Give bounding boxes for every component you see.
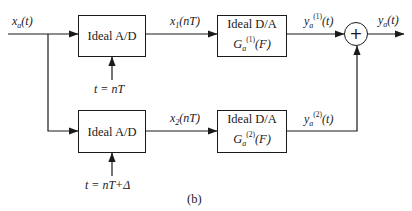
dac-2-label: Ideal D/A <box>227 111 277 127</box>
ideal-ad-converter-2: Ideal A/D <box>78 110 146 153</box>
figure-caption: (b) <box>187 192 202 207</box>
output-signal-label: ya(t) <box>378 13 399 29</box>
dac-output-label-1: ya(1)(t) <box>304 12 333 30</box>
dac-1-transfer-function: Ga(1)(F) <box>233 32 271 57</box>
summing-junction: + <box>344 22 368 46</box>
sampling-time-label-1: t = nT <box>94 82 124 97</box>
input-signal-label: xa(t) <box>12 14 33 30</box>
ideal-da-converter-1: Ideal D/A Ga(1)(F) <box>217 15 287 57</box>
plus-icon: + <box>349 26 362 42</box>
dac-2-transfer-function: Ga(2)(F) <box>233 127 271 152</box>
sample-signal-label-2: x2(nT) <box>170 111 200 127</box>
dac-1-label: Ideal D/A <box>227 16 277 32</box>
sampling-time-label-2: t = nT+Δ <box>85 178 130 193</box>
dac-output-label-2: ya(2)(t) <box>304 110 333 128</box>
ideal-ad-converter-1: Ideal A/D <box>78 15 146 57</box>
ideal-da-converter-2: Ideal D/A Ga(2)(F) <box>217 110 287 153</box>
adc-2-label: Ideal A/D <box>88 124 137 140</box>
sample-signal-label-1: x1(nT) <box>170 14 200 30</box>
adc-1-label: Ideal A/D <box>88 28 137 44</box>
